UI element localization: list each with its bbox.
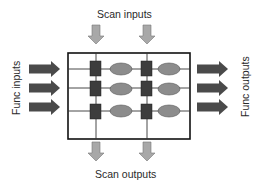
scan-output-arrow-1 (88, 142, 104, 161)
func-output-arrows (197, 61, 228, 115)
func-outputs-label: Func outputs (240, 56, 251, 117)
scan-input-arrows (88, 25, 155, 44)
flop-r2-c2 (141, 81, 152, 96)
func-input-arrow-1 (29, 61, 60, 77)
func-input-arrow-3 (29, 99, 60, 115)
scan-input-arrow-1 (88, 25, 104, 44)
logic-r2-c2 (158, 83, 180, 95)
func-input-arrow-2 (29, 80, 60, 96)
func-output-arrow-2 (197, 80, 228, 96)
logic-r3-c2 (158, 105, 180, 117)
func-output-arrow-3 (197, 99, 228, 115)
flop-r2-c1 (90, 81, 101, 96)
scan-output-arrow-2 (139, 142, 155, 161)
func-input-arrows (29, 61, 60, 115)
func-inputs-label: Func inputs (11, 61, 22, 115)
logic-r1-c1 (110, 63, 132, 75)
scan-input-arrow-2 (139, 25, 155, 44)
scan-inputs-label: Scan inputs (97, 9, 152, 20)
scan-output-arrows (88, 142, 155, 161)
logic-r2-c1 (110, 83, 132, 95)
flop-r3-c2 (141, 104, 152, 119)
logic-r3-c1 (110, 105, 132, 117)
scan-outputs-label: Scan outputs (95, 169, 156, 180)
func-output-arrow-1 (197, 61, 228, 77)
flop-r1-c2 (141, 61, 152, 76)
scan-diagram (0, 0, 260, 189)
flop-r1-c1 (90, 61, 101, 76)
logic-r1-c2 (158, 63, 180, 75)
flop-r3-c1 (90, 104, 101, 119)
